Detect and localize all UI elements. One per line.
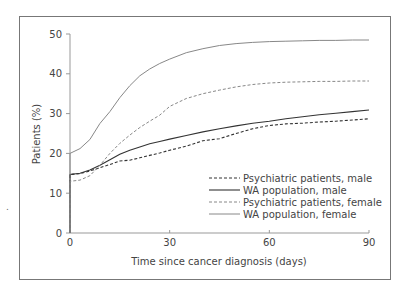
x-tick-label: 60 (263, 237, 276, 248)
chart-frame (20, 17, 391, 280)
x-tick-label: 90 (363, 237, 376, 248)
legend-label: WA population, female (243, 209, 356, 220)
x-tick-label: 0 (67, 237, 73, 248)
y-tick-label: 0 (56, 228, 62, 239)
y-tick-label: 50 (49, 29, 62, 40)
x-tick-label: 30 (163, 237, 176, 248)
legend-label: WA population, male (243, 185, 347, 196)
legend-label: Psychiatric patients, female (243, 197, 382, 208)
y-axis-title: Patients (%) (31, 104, 42, 165)
y-tick-label: 40 (49, 68, 62, 79)
stray-mark: . (6, 202, 9, 212)
x-axis-title: Time since cancer diagnosis (days) (130, 256, 307, 267)
y-tick-label: 30 (49, 108, 62, 119)
y-tick-label: 20 (49, 148, 62, 159)
legend-label: Psychiatric patients, male (243, 173, 372, 184)
line-chart: 01020304050 0306090 Time since cancer di… (0, 0, 409, 290)
y-tick-label: 10 (49, 188, 62, 199)
